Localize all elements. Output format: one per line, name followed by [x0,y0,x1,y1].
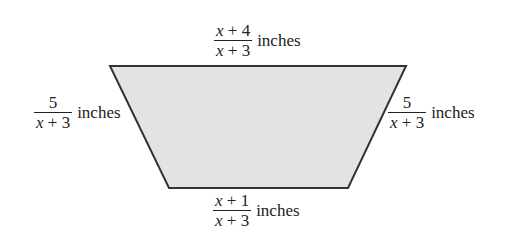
left-side-label: 5 x + 3 inches [34,94,121,131]
bottom-side-label: x + 1 x + 3 inches [213,192,300,229]
top-side-label: x + 4 x + 3 inches [214,22,301,59]
left-numerator: 5 [47,94,60,112]
top-denominator: x + 3 [214,40,252,59]
bottom-side-fraction: x + 1 x + 3 [213,192,251,229]
top-side-fraction: x + 4 x + 3 [214,22,252,59]
top-numerator: x + 4 [214,22,252,40]
trapezoid [110,66,406,188]
left-unit: inches [77,104,120,121]
top-unit: inches [257,32,300,49]
right-numerator: 5 [401,94,414,112]
bottom-unit: inches [256,202,299,219]
bottom-numerator: x + 1 [213,192,251,210]
right-side-label: 5 x + 3 inches [388,94,475,131]
left-side-fraction: 5 x + 3 [34,94,72,131]
right-denominator: x + 3 [388,112,426,131]
right-side-fraction: 5 x + 3 [388,94,426,131]
bottom-denominator: x + 3 [213,210,251,229]
right-unit: inches [431,104,474,121]
left-denominator: x + 3 [34,112,72,131]
